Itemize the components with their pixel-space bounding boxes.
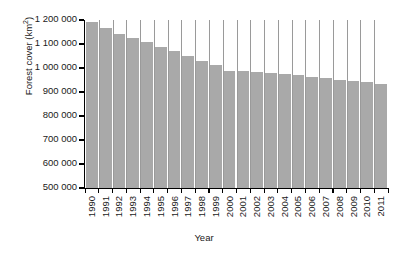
bar-separator-line: [99, 20, 100, 188]
x-axis-tick: [360, 188, 361, 193]
y-axis-tick-label: 500 000: [5, 181, 77, 192]
x-axis-tick-label: 2009: [348, 196, 362, 217]
bar: [333, 80, 347, 188]
x-axis-tick: [85, 188, 86, 193]
x-axis-tick: [277, 188, 278, 193]
bar: [168, 51, 182, 188]
bar: [140, 42, 154, 188]
bar: [181, 56, 195, 188]
x-axis-tick-label: 2003: [265, 196, 279, 217]
x-axis-tick-label: 2006: [306, 196, 320, 217]
x-axis-tick-label: 2002: [251, 196, 265, 217]
bar-separator-line: [237, 20, 238, 188]
y-axis-tick-label: 800 000: [5, 109, 77, 120]
x-axis-tick: [98, 188, 99, 193]
x-axis-tick: [250, 188, 251, 193]
bar-separator-line: [347, 20, 348, 188]
bar: [195, 61, 209, 188]
x-axis-tick-label: 1995: [155, 196, 169, 217]
bar: [126, 38, 140, 188]
bar-separator-line: [374, 20, 375, 188]
x-axis-tick: [153, 188, 154, 193]
bar: [292, 75, 306, 188]
x-axis-tick-label: 2007: [320, 196, 334, 217]
x-axis-tick: [167, 188, 168, 193]
bar-separator-line: [223, 20, 224, 188]
forest-cover-bar-chart: Forest cover (km2) 1 200 0001 100 0001 0…: [0, 0, 408, 256]
x-axis-tick: [236, 188, 237, 193]
bar: [347, 81, 361, 188]
x-axis-tick-label: 1993: [127, 196, 141, 217]
bar: [264, 73, 278, 188]
x-axis-tick: [291, 188, 292, 193]
bar-separator-line: [333, 20, 334, 188]
plot-clip: [85, 20, 388, 188]
bar: [278, 74, 292, 188]
x-axis-tick-label: 1991: [100, 196, 114, 217]
bar-separator-line: [209, 20, 210, 188]
x-axis-tick: [140, 188, 141, 193]
bar: [154, 47, 168, 188]
x-axis-tick-label: 2010: [361, 196, 375, 217]
x-axis-tick: [112, 188, 113, 193]
y-axis-tick: [79, 139, 84, 140]
bar-separator-line: [140, 20, 141, 188]
bar-separator-line: [250, 20, 251, 188]
x-axis-tick: [332, 188, 333, 193]
x-axis-tick-label: 2004: [279, 196, 293, 217]
bar: [305, 77, 319, 188]
x-axis-tick: [181, 188, 182, 193]
y-axis-tick-label: 700 000: [5, 133, 77, 144]
y-axis-tick-label: 1 100 000: [5, 37, 77, 48]
x-axis-tick-label: 1994: [141, 196, 155, 217]
x-axis-tick: [346, 188, 347, 193]
bar: [374, 84, 388, 188]
bar-separator-line: [360, 20, 361, 188]
x-axis-tick-label: 1996: [169, 196, 183, 217]
x-axis-tick-label: 1998: [196, 196, 210, 217]
y-axis-tick-labels: 1 200 0001 100 0001 000 000900 000800 00…: [0, 0, 77, 256]
y-axis-tick: [79, 163, 84, 164]
y-axis-tick-label: 900 000: [5, 85, 77, 96]
bar-separator-line: [113, 20, 114, 188]
bar-separator-line: [168, 20, 169, 188]
x-axis-tick-label: 1992: [113, 196, 127, 217]
bar: [223, 71, 237, 188]
x-axis-tick: [264, 188, 265, 193]
bar-separator-line: [319, 20, 320, 188]
y-axis-tick-label: 1 200 000: [5, 13, 77, 24]
bar: [99, 28, 113, 188]
y-axis-tick: [79, 187, 84, 188]
bar-separator-line: [126, 20, 127, 188]
x-axis-tick-label: 2011: [375, 196, 389, 216]
plot-area: [85, 20, 388, 188]
bar: [237, 71, 251, 188]
x-axis-title: Year: [0, 232, 408, 243]
x-axis-tick: [126, 188, 127, 193]
y-axis-tick: [79, 115, 84, 116]
bar-separator-line: [292, 20, 293, 188]
x-axis-tick-label: 2001: [237, 196, 251, 217]
x-axis-tick: [208, 188, 209, 193]
bar: [209, 65, 223, 188]
bar: [360, 82, 374, 188]
bar: [113, 34, 127, 188]
y-axis-tick-label: 1 000 000: [5, 61, 77, 72]
bar-separator-line: [181, 20, 182, 188]
x-axis-tick-label: 2000: [224, 196, 238, 217]
x-axis-tick: [319, 188, 320, 193]
bar-separator-line: [264, 20, 265, 188]
x-axis-tick: [305, 188, 306, 193]
bar: [85, 22, 99, 188]
y-axis-tick: [79, 91, 84, 92]
y-axis-tick: [79, 67, 84, 68]
bar-separator-line: [305, 20, 306, 188]
y-axis-tick-label: 600 000: [5, 157, 77, 168]
x-axis-tick: [388, 188, 389, 193]
bar: [319, 78, 333, 188]
x-axis-tick-label: 1997: [182, 196, 196, 217]
bar-separator-line: [278, 20, 279, 188]
x-axis-tick: [222, 188, 223, 193]
x-axis-tick-label: 2005: [292, 196, 306, 217]
bar: [250, 72, 264, 188]
